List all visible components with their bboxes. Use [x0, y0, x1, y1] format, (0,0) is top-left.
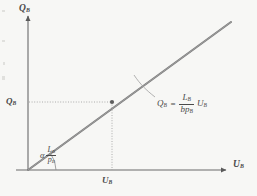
x-axis-tick-label: UB [102, 176, 112, 186]
equation-rhs: UB [197, 99, 207, 109]
figure-canvas: QB UB QB UB α LB pB QB = LB bpB UB [0, 0, 257, 196]
slope-numerator: LB [46, 146, 56, 155]
marked-point [110, 100, 114, 104]
equation-numerator: LB [181, 93, 192, 104]
equation-fraction: LB bpB [179, 93, 194, 115]
slope-denominator: pB [46, 156, 56, 165]
x-axis-label: UB [233, 160, 244, 170]
equals-sign: = [169, 100, 176, 109]
y-axis-tick-label: QB [6, 97, 16, 107]
relation-equation-annotation: QB = LB bpB UB [157, 93, 207, 115]
slope-fraction: LB pB [46, 146, 56, 165]
slope-angle-annotation: α LB pB [40, 146, 56, 165]
alpha-symbol: α [40, 151, 44, 160]
figure-graphics [0, 0, 257, 196]
y-axis-label: QB [19, 4, 30, 14]
equation-denominator: bpB [179, 105, 194, 116]
equation-lhs: QB [157, 99, 167, 109]
